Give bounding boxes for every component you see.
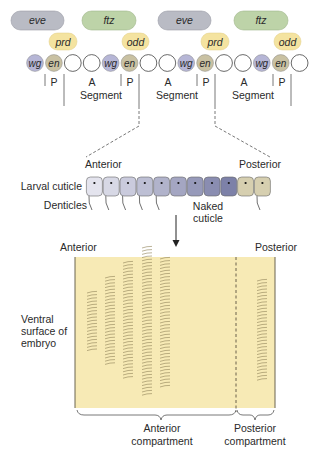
anterior-compartment-label: A [164,76,171,88]
anterior-compartment-caption-line2: compartment [131,435,192,447]
cuticle-cell-denticle [137,177,153,210]
ventral-surface-label-line1: Ventral [21,313,54,325]
cuticle-anterior-label: Anterior [85,158,122,170]
gene-pill-eve: eve [158,11,211,30]
posterior-compartment-caption-line1: Posterior [234,422,277,434]
pair-rule-row-2: prd odd prd odd [49,33,301,50]
gene-pill-eve: eve [11,11,64,30]
cuticle-cell-denticle [204,177,220,196]
segment-label: Segment [156,89,198,101]
cuticle-cell-denticle [221,177,237,196]
cell-empty [64,55,81,72]
cell-gene-label: en [200,58,212,69]
embryo-posterior-label: Posterior [255,241,298,253]
segmentation-diagram: eve ftz eve ftz prd odd prd o [0,0,317,455]
cell-wg: wg [102,55,119,72]
gene-pill-prd: prd [49,33,77,50]
pair-rule-row-1: eve ftz eve ftz [11,11,288,30]
ventral-surface-label-line3: embryo [21,337,56,349]
larval-cuticle-label: Larval cuticle [21,180,82,192]
embryo-anterior-label: Anterior [60,241,97,253]
cell-row: wgenwgenwgenwgen [27,55,308,72]
cell-en: en [121,55,138,72]
zoom-guide-right [215,106,270,157]
denticles-label: Denticles [44,199,87,211]
cell-empty [216,55,233,72]
cell-empty [291,55,308,72]
cell-en: en [272,55,289,72]
cuticle-cell-denticle [103,177,119,210]
gene-label: prd [206,36,223,48]
gene-pill-odd: odd [274,33,301,50]
cell-gene-label: wg [180,58,193,69]
cuticle-cell-denticle [170,177,186,196]
cell-wg: wg [27,55,44,72]
ventral-surface-label-line2: surface of [21,325,67,337]
cell-gene-label: en [124,58,136,69]
cell-gene-label: wg [29,58,42,69]
gene-label: ftz [103,14,115,26]
denticle-hair [89,196,92,210]
cuticle-posterior-label: Posterior [239,158,282,170]
cuticle-cell-denticle [187,177,203,196]
posterior-compartment-label: P [278,76,285,88]
cell-empty [140,55,157,72]
gene-label: odd [127,36,146,48]
segment-labels: P A P A P A P Segment Segment Segment [50,76,285,101]
naked-cuticle-label-line1: Naked [193,200,224,212]
cuticle-cell-denticle [154,177,170,210]
cuticle-cell-naked [254,177,270,210]
larval-cuticle-cells [86,177,270,210]
denticle-hair [106,196,109,210]
gene-pill-ftz: ftz [234,11,288,30]
posterior-compartment-label: P [50,76,57,88]
gene-label: prd [54,36,71,48]
cuticle-cell-naked [238,177,254,196]
gene-label: odd [279,36,298,48]
denticle-hair [156,196,159,210]
compartment-braces [77,410,274,420]
posterior-compartment-brace [237,410,274,420]
denticle-hair [122,196,125,210]
posterior-compartment-label: P [126,76,133,88]
cuticle-cell-denticle [86,177,102,210]
posterior-compartment-label: P [202,76,209,88]
naked-cuticle-label-line2: cuticle [193,212,223,224]
gene-label: ftz [255,14,267,26]
denticle-hair [139,196,142,210]
anterior-compartment-caption-line1: Anterior [144,422,181,434]
zoom-guide-lines [86,106,270,157]
embryo-ventral-panel [75,257,275,412]
anterior-compartment-label: A [240,76,247,88]
cuticle-cell-denticle [120,177,136,210]
gene-pill-ftz: ftz [82,11,136,30]
cell-wg: wg [178,55,195,72]
zoom-guide-left [86,106,139,157]
cell-empty [159,55,176,72]
gene-label: eve [176,14,193,26]
segment-label: Segment [80,89,122,101]
cell-gene-label: wg [104,58,117,69]
gene-label: eve [29,14,46,26]
cell-empty [235,55,252,72]
cell-gene-label: en [275,58,287,69]
segment-label: Segment [232,89,274,101]
gene-pill-prd: prd [201,33,229,50]
cell-gene-label: en [48,58,60,69]
posterior-compartment-caption-line2: compartment [224,435,285,447]
anterior-compartment-brace [77,410,236,420]
cell-wg: wg [253,55,270,72]
cell-gene-label: wg [255,58,268,69]
cell-empty [83,55,100,72]
cell-en: en [46,55,63,72]
denticle-hair [257,196,260,210]
down-arrow-icon [173,215,180,247]
anterior-compartment-label: A [88,76,95,88]
cell-en: en [197,55,214,72]
gene-pill-odd: odd [122,33,149,50]
